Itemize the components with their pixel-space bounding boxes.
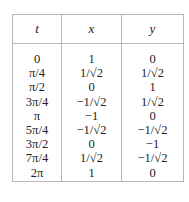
cell: 0: [62, 137, 121, 151]
cell: 2π: [13, 166, 61, 180]
cell: 1: [62, 52, 121, 66]
header-t: t: [13, 15, 61, 43]
cell: −1/√2: [62, 95, 121, 109]
header-x: x: [62, 15, 121, 43]
cell: −1/√2: [122, 123, 183, 137]
cell: π: [13, 109, 61, 123]
header-y: y: [122, 15, 183, 43]
cell: 0: [13, 52, 61, 66]
cell: 5π/4: [13, 123, 61, 137]
cell: −1: [62, 109, 121, 123]
cell: π/4: [13, 66, 61, 80]
cell: 1/√2: [122, 95, 183, 109]
cell: 1/√2: [62, 151, 121, 165]
cell: −1: [122, 137, 183, 151]
cell: −1/√2: [122, 151, 183, 165]
cell: 1/√2: [122, 66, 183, 80]
cell: 7π/4: [13, 151, 61, 165]
cell: 1: [122, 80, 183, 94]
header-divider: [13, 43, 183, 44]
cell: 1/√2: [62, 66, 121, 80]
cell: π/2: [13, 80, 61, 94]
cell: −1/√2: [62, 123, 121, 137]
cell: 3π/2: [13, 137, 61, 151]
cell: 0: [62, 80, 121, 94]
cell: 0: [122, 52, 183, 66]
cell: 0: [122, 166, 183, 180]
cell: 0: [122, 109, 183, 123]
cell: 3π/4: [13, 95, 61, 109]
parametric-values-table: t 0 π/4 π/2 3π/4 π 5π/4 3π/2 7π/4 2π x 1…: [12, 14, 184, 182]
cell: 1: [62, 166, 121, 180]
